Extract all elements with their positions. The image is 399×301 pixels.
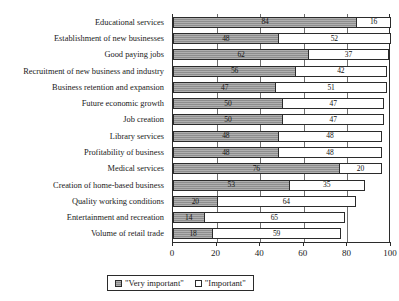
bar-row: 1465 xyxy=(173,212,389,223)
x-tick-label-20: 20 xyxy=(211,249,220,258)
clipped-top-text xyxy=(6,0,246,4)
x-tick-label-80: 80 xyxy=(342,249,351,258)
stacked-bar: 4852 xyxy=(173,33,391,44)
bar-row: 5335 xyxy=(173,180,389,191)
stacked-bar: 1465 xyxy=(173,212,345,223)
category-label: Creation of home-based business xyxy=(53,180,164,191)
segment-value-label: 48 xyxy=(326,149,333,157)
segment-important: 47 xyxy=(282,98,384,109)
segment-very-important: 50 xyxy=(173,114,282,125)
category-label: Entertainment and recreation xyxy=(67,212,164,223)
segment-important: 52 xyxy=(278,33,391,44)
segment-value-label: 47 xyxy=(330,100,337,108)
legend-swatch-very-important xyxy=(115,280,122,287)
category-label: Volume of retail trade xyxy=(91,228,164,239)
stacked-bar: 4848 xyxy=(173,147,382,158)
category-label: Profitability of business xyxy=(84,147,164,158)
x-tick-label-40: 40 xyxy=(255,249,264,258)
segment-value-label: 16 xyxy=(370,18,377,26)
segment-value-label: 52 xyxy=(331,35,338,43)
segment-value-label: 50 xyxy=(224,116,231,124)
bar-row: 5047 xyxy=(173,114,389,125)
category-label: Job creation xyxy=(123,114,164,125)
category-label: Future economic growth xyxy=(82,98,164,109)
segment-value-label: 18 xyxy=(189,230,196,238)
bar-row: 2064 xyxy=(173,196,389,207)
x-tick-label-0: 0 xyxy=(170,249,175,258)
segment-value-label: 65 xyxy=(271,214,278,222)
category-label: Good paying jobs xyxy=(104,49,164,60)
bar-row: 5047 xyxy=(173,98,389,109)
segment-value-label: 51 xyxy=(327,84,334,92)
segment-value-label: 48 xyxy=(222,149,229,157)
segment-very-important: 47 xyxy=(173,82,275,93)
segment-value-label: 48 xyxy=(222,132,229,140)
x-tick-100 xyxy=(390,242,391,246)
segment-important: 20 xyxy=(339,163,383,174)
segment-value-label: 20 xyxy=(192,198,199,206)
segment-value-label: 53 xyxy=(228,181,235,189)
x-axis: 020406080100 xyxy=(172,242,390,243)
segment-value-label: 47 xyxy=(330,116,337,124)
bar-row: 8416 xyxy=(173,17,389,28)
bar-row: 6237 xyxy=(173,49,389,60)
segment-value-label: 84 xyxy=(261,18,268,26)
legend-label-important: "Important" xyxy=(205,278,246,288)
stacked-bar: 5335 xyxy=(173,180,365,191)
category-label: Medical services xyxy=(107,163,164,174)
stacked-bar: 6237 xyxy=(173,49,389,60)
x-tick-20 xyxy=(216,242,217,246)
stacked-bar: 4751 xyxy=(173,82,387,93)
legend-item-important: "Important" xyxy=(195,278,246,288)
segment-important: 16 xyxy=(356,17,391,28)
category-label: Establishment of new businesses xyxy=(54,33,164,44)
segment-very-important: 48 xyxy=(173,33,278,44)
category-axis-labels: Educational servicesEstablishment of new… xyxy=(0,14,168,242)
stacked-bar: 5047 xyxy=(173,114,384,125)
x-tick-80 xyxy=(346,242,347,246)
segment-important: 59 xyxy=(212,228,341,239)
segment-value-label: 47 xyxy=(221,84,228,92)
segment-value-label: 56 xyxy=(231,67,238,75)
category-label: Recruitment of new business and industry xyxy=(23,66,164,77)
category-label: Business retention and expansion xyxy=(52,82,164,93)
stacked-bar: 2064 xyxy=(173,196,356,207)
segment-very-important: 18 xyxy=(173,228,212,239)
segment-important: 42 xyxy=(295,66,387,77)
segment-value-label: 48 xyxy=(326,132,333,140)
category-label: Library services xyxy=(110,131,164,142)
segment-important: 64 xyxy=(217,196,357,207)
stacked-bar: 1859 xyxy=(173,228,341,239)
segment-very-important: 53 xyxy=(173,180,289,191)
segment-very-important: 62 xyxy=(173,49,308,60)
legend-swatch-important xyxy=(195,280,202,287)
segment-very-important: 20 xyxy=(173,196,217,207)
category-label: Quality working conditions xyxy=(72,196,164,207)
segment-very-important: 50 xyxy=(173,98,282,109)
segment-important: 47 xyxy=(282,114,384,125)
segment-important: 35 xyxy=(289,180,365,191)
category-label: Educational services xyxy=(95,17,164,28)
stacked-bar: 7620 xyxy=(173,163,382,174)
segment-value-label: 35 xyxy=(323,181,330,189)
x-tick-label-60: 60 xyxy=(298,249,307,258)
segment-value-label: 14 xyxy=(185,214,192,222)
bar-row: 4751 xyxy=(173,82,389,93)
bar-row: 4852 xyxy=(173,33,389,44)
bar-row: 7620 xyxy=(173,163,389,174)
bar-row: 1859 xyxy=(173,228,389,239)
segment-value-label: 59 xyxy=(273,230,280,238)
stacked-bar: 4848 xyxy=(173,131,382,142)
segment-very-important: 84 xyxy=(173,17,356,28)
stacked-bar-chart: Educational servicesEstablishment of new… xyxy=(0,0,399,301)
segment-important: 37 xyxy=(308,49,389,60)
segment-important: 48 xyxy=(278,131,383,142)
stacked-bar: 8416 xyxy=(173,17,391,28)
legend-label-very-important: "Very important" xyxy=(125,278,184,288)
segment-very-important: 56 xyxy=(173,66,295,77)
segment-very-important: 76 xyxy=(173,163,339,174)
x-tick-40 xyxy=(259,242,260,246)
stacked-bar: 5047 xyxy=(173,98,384,109)
segment-very-important: 48 xyxy=(173,147,278,158)
segment-very-important: 14 xyxy=(173,212,204,223)
